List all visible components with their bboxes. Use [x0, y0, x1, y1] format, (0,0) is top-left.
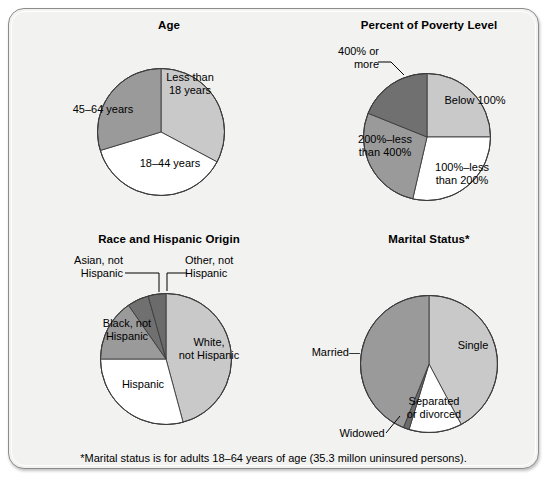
chart-title-marital: Marital Status*: [329, 233, 529, 245]
pie-slice-label-race-white: White, not Hispanic: [167, 336, 251, 362]
pie-slice-label-marital-widowed: Widowed: [329, 427, 395, 440]
pie-slice-label-poverty-100-200: 100%–less than 200%: [419, 161, 505, 187]
pie-slice-label-race-asian: Asian, not Hispanic: [41, 254, 123, 280]
figure-root: Age Less than 18 years 18–44 years 45–64…: [0, 0, 553, 490]
pie-slice-label-age-less-than-18: Less than 18 years: [152, 71, 228, 97]
pie-slice-label-poverty-200-400: 200%–less than 400%: [342, 133, 428, 159]
pie-slice-label-marital-separated: Separated or divorced: [392, 395, 476, 421]
pie-slice-label-age-18-44: 18–44 years: [115, 157, 225, 170]
pie-slice-label-marital-married: Married—: [296, 346, 360, 359]
pie-slice-label-poverty-400-or-more: 400% or more: [301, 45, 379, 71]
figure-panel: Age Less than 18 years 18–44 years 45–64…: [8, 8, 539, 469]
chart-title-poverty: Percent of Poverty Level: [329, 19, 529, 31]
pie-slice-label-race-hispanic: Hispanic: [105, 378, 181, 391]
figure-footnote: *Marital status is for adults 18–64 year…: [9, 452, 538, 464]
pie-slice-label-age-45-64: 45–64 years: [59, 103, 147, 116]
chart-title-race: Race and Hispanic Origin: [59, 233, 279, 245]
pie-slice-label-marital-single: Single: [443, 339, 503, 352]
pie-slice-label-poverty-below-100: Below 100%: [431, 94, 519, 107]
pie-slice-label-race-other: Other, not Hispanic: [185, 254, 267, 280]
chart-title-age: Age: [79, 19, 259, 31]
pie-slice-label-race-black: Black, not Hispanic: [87, 317, 167, 343]
